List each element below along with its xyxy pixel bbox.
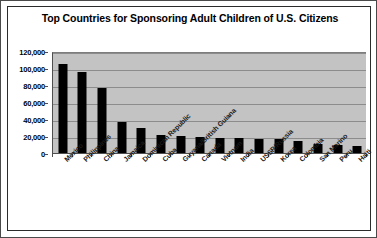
bar[interactable] <box>78 72 87 153</box>
bar-slot <box>249 53 269 153</box>
chart-inner-frame: Top Countries for Sponsoring Adult Child… <box>7 6 371 231</box>
y-tick-mark <box>45 154 48 155</box>
bar-slot <box>289 53 309 153</box>
bar[interactable] <box>353 146 362 153</box>
y-tick-mark <box>45 69 48 70</box>
y-tick-label: 20,000 <box>23 133 45 142</box>
y-tick-mark <box>45 120 48 121</box>
y-tick-label: 100,000 <box>19 65 45 74</box>
x-tick-mark <box>52 154 53 157</box>
bar-slot <box>347 53 366 153</box>
bar-slot <box>171 53 191 153</box>
bar[interactable] <box>58 64 67 153</box>
y-axis: 120,000100,00080,00060,00040,00020,0000 <box>8 52 48 155</box>
bar-slot <box>210 53 230 153</box>
chart-outer-frame: Top Countries for Sponsoring Adult Child… <box>0 0 377 238</box>
y-tick-mark <box>45 52 48 53</box>
chart-title: Top Countries for Sponsoring Adult Child… <box>26 12 354 25</box>
y-tick-mark <box>45 137 48 138</box>
bar-slot <box>112 53 132 153</box>
y-tick-label: 120,000 <box>19 48 45 57</box>
bar-slot <box>132 53 152 153</box>
y-tick-mark <box>45 103 48 104</box>
y-tick-label: 80,000 <box>23 82 45 91</box>
y-tick-label: 60,000 <box>23 99 45 108</box>
bar[interactable] <box>255 139 264 153</box>
bar-slot <box>230 53 250 153</box>
y-tick-mark <box>45 86 48 87</box>
bar-slot <box>73 53 93 153</box>
y-tick-label: 40,000 <box>23 116 45 125</box>
bar-slot <box>53 53 73 153</box>
x-axis: MexicoPhilippinesChinaJamaicaDominican R… <box>52 154 366 238</box>
